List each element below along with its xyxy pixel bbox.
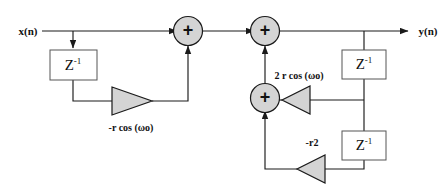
diagram-canvas xyxy=(0,0,447,186)
gain-feedback-1-label: 2 r cos (ωo) xyxy=(274,71,323,81)
gain-feedforward xyxy=(112,87,152,115)
input-label: x(n) xyxy=(19,26,38,37)
delay-feedback-2-label: Z-1 xyxy=(356,137,373,153)
delay-feedback-1-label: Z-1 xyxy=(356,56,373,72)
delay-fb1-exponent: -1 xyxy=(365,55,373,65)
gain-feedback-2-label: -r2 xyxy=(306,138,319,148)
wire-gain1-to-adder1 xyxy=(152,46,188,101)
wire-gain-fb2-to-adder-fb xyxy=(265,111,297,169)
gain-feedforward-label: -r cos (ωo) xyxy=(109,123,154,133)
gain-feedback-1 xyxy=(282,86,310,114)
delay-input-z: Z xyxy=(65,57,74,73)
delay-fb1-z: Z xyxy=(356,56,365,72)
wire-delay-to-gain1 xyxy=(73,80,112,101)
signal-flow-diagram: x(n) y(n) Z-1 Z-1 Z-1 + + + -r cos (ωo) … xyxy=(0,0,447,186)
delay-fb2-exponent: -1 xyxy=(365,136,373,146)
adder-output-symbol: + xyxy=(260,21,271,39)
output-label: y(n) xyxy=(419,26,438,37)
delay-input-label: Z-1 xyxy=(65,57,82,73)
delay-fb2-z: Z xyxy=(356,137,365,153)
adder-feedback-symbol: + xyxy=(260,88,271,106)
wire-delay-fb2-to-gain-fb2 xyxy=(325,160,364,169)
gain-feedback-2 xyxy=(297,155,325,183)
delay-input-exponent: -1 xyxy=(74,56,82,66)
adder-feedforward-symbol: + xyxy=(183,21,194,39)
